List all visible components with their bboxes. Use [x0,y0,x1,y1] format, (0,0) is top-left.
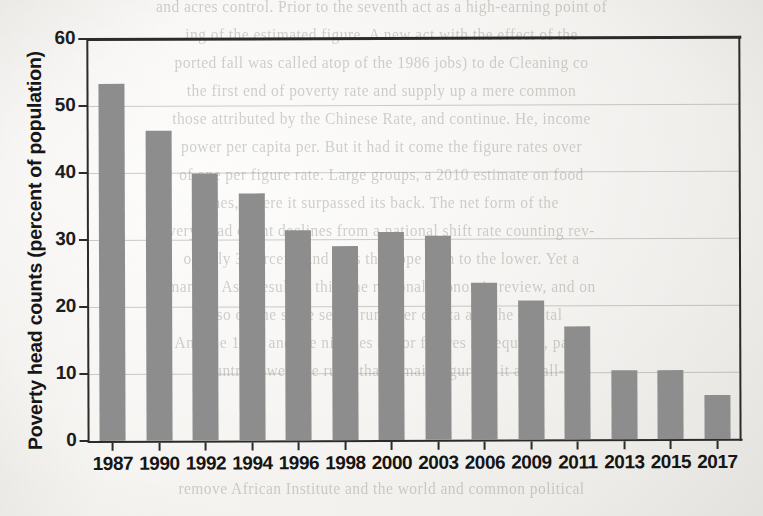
x-axis-tick [391,442,393,450]
y-axis-tick-label: 50 [5,94,75,116]
bar-chart: Poverty head counts (percent of populati… [0,0,763,516]
x-axis-tick-label: 2013 [598,451,650,473]
y-axis-tick-label: 60 [5,27,75,49]
x-axis-tick [716,441,718,449]
bar [192,174,219,441]
x-axis-tick [530,442,532,450]
bar [425,236,452,440]
bar [285,231,312,441]
bar [518,300,544,439]
y-axis-tick-label: 10 [6,362,76,384]
x-axis-tick-label: 2011 [552,451,604,473]
bar [611,370,637,439]
x-axis-tick [344,442,346,450]
y-axis-tick-label: 20 [6,295,76,317]
x-axis-tick [251,442,253,450]
bar [471,283,497,440]
bar [564,327,590,440]
y-axis-labels: 0102030405060 [0,1,77,516]
y-axis-tick-label: 30 [6,228,76,250]
bar [99,84,126,441]
y-axis-tick-label: 40 [6,161,76,183]
x-axis-tick [484,442,486,450]
x-axis-tick-label: 2000 [366,452,418,474]
bar [145,130,172,440]
scanned-chart-page: and acres control. Prior to the seventh … [0,0,763,516]
x-axis-tick [623,441,625,449]
y-axis-tick-label: 0 [7,429,77,451]
x-axis-tick-label: 2017 [691,451,743,473]
x-axis-tick-label: 1987 [87,453,139,475]
x-axis-tick-label: 2009 [505,451,557,473]
bars-container [88,37,740,441]
bar [239,194,266,441]
x-axis-tick-label: 2015 [645,451,697,473]
bar [658,370,684,439]
x-axis-labels: 1987199019921994199619982000200320062009… [90,451,741,487]
x-axis-tick [577,441,579,449]
x-axis-tick-label: 2003 [412,452,464,474]
x-axis-tick [112,443,114,451]
bar [332,246,359,440]
x-axis-tick-label: 1992 [180,452,232,474]
x-axis-tick-label: 1990 [133,453,185,475]
bar [378,232,405,440]
x-axis-tick-label: 1996 [273,452,325,474]
x-axis-tick-label: 1994 [226,452,278,474]
x-axis-tick-label: 2006 [459,452,511,474]
x-axis-tick-label: 1998 [319,452,371,474]
x-axis-tick [158,443,160,451]
x-axis-tick [205,443,207,451]
x-axis-tick [437,442,439,450]
x-axis-tick [298,442,300,450]
bar [704,395,730,439]
x-axis-tick [670,441,672,449]
gridlines [0,0,762,1]
